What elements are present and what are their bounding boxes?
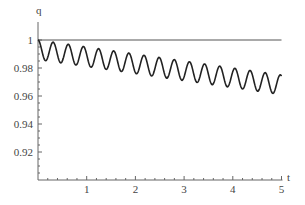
x-tick-label: 1 [84, 183, 90, 195]
y-tick-label: 0.96 [14, 90, 34, 102]
y-tick-label: 0.94 [14, 118, 34, 130]
line-chart: 10.980.960.940.9212345 q t [0, 0, 305, 205]
data-curve [38, 40, 282, 93]
x-tick-label: 4 [230, 183, 236, 195]
x-tick-label: 3 [181, 183, 187, 195]
x-tick-label: 2 [133, 183, 139, 195]
x-tick-label: 5 [279, 183, 285, 195]
y-tick-label: 1 [28, 34, 34, 46]
tick-labels: 10.980.960.940.9212345 [14, 34, 285, 195]
axes [38, 22, 283, 180]
y-axis-label: q [36, 4, 42, 16]
y-tick-label: 0.92 [14, 146, 33, 158]
x-axis-label: t [287, 171, 290, 183]
y-tick-label: 0.98 [14, 62, 34, 74]
